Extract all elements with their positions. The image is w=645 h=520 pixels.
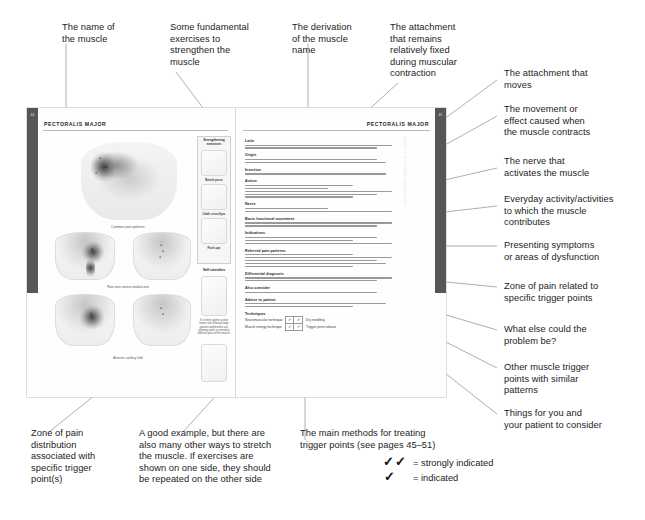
referred-pain-figure-1a xyxy=(55,232,115,280)
exercise-caption-3: Push-ups xyxy=(198,246,230,250)
left-page-number: 44 xyxy=(27,113,38,117)
section-heading: Latin xyxy=(245,139,395,143)
referred-pain-figure-2a xyxy=(55,294,115,346)
strengthening-exercises-box: Strengthening exercises Bench press Cabl… xyxy=(197,136,231,264)
callout-action: The movement or effect caused when the m… xyxy=(504,104,644,139)
section-advice-to-patient: Advice to patient xyxy=(245,298,395,309)
pain-zone-blob xyxy=(86,257,95,279)
legend-label-strong: = strongly indicated xyxy=(413,457,493,470)
callout-also-consider: Other muscle trigger points with similar… xyxy=(504,362,640,397)
right-page: 45 Muscles of the shoulder and upper arm… xyxy=(236,108,446,397)
check-icon: ✓ xyxy=(294,324,302,330)
body-text-line xyxy=(245,225,377,226)
indication-legend: ✓✓ = strongly indicated ✓ = indicated xyxy=(383,455,493,485)
pain-zone-blob-main xyxy=(91,152,117,182)
body-text-line xyxy=(245,173,386,174)
right-page-index-tab: 45 Muscles of the shoulder and upper arm xyxy=(435,108,446,293)
self-stretch-sketch-1 xyxy=(201,276,227,316)
self-stretch-note: To stretch against a door frame, take fo… xyxy=(197,319,231,335)
techniques-row: Muscle energy technique✓✓Trigger point r… xyxy=(245,324,395,331)
callout-pain-zone: Zone of pain distribution associated wit… xyxy=(31,428,123,486)
techniques-table: Neuromuscular technique✓✓Dry needlingMus… xyxy=(245,317,395,331)
body-text-line xyxy=(245,211,392,212)
book-spread: 44 Muscles of the shoulder and upper arm… xyxy=(27,108,446,397)
section-heading: Action xyxy=(245,179,395,183)
strengthening-exercises-heading: Strengthening exercises xyxy=(198,139,230,147)
left-page-title: PECTORALIS MAJOR xyxy=(44,121,106,127)
section-heading: Also consider xyxy=(245,286,395,290)
technique-note: Dry needling xyxy=(306,318,325,322)
caption-referred-1: Common pain patterns xyxy=(53,225,203,229)
section-referred-pain-patterns: Referred pain patterns xyxy=(245,249,395,269)
callout-origin: The attachment that remains relatively f… xyxy=(390,22,472,80)
section-heading: Advice to patient xyxy=(245,298,395,302)
section-nerve: Nerve xyxy=(245,202,395,213)
trigger-point-marker xyxy=(160,307,162,309)
exercise-sketch-3 xyxy=(201,218,228,244)
callout-techniques: The main methods for treating trigger po… xyxy=(300,428,466,451)
left-page-index-tab: 44 Muscles of the shoulder and upper arm xyxy=(27,108,38,293)
right-page-number: 45 xyxy=(435,113,446,117)
body-text-line xyxy=(245,222,392,223)
section-heading: Basic functional movement xyxy=(245,217,395,221)
body-text-line xyxy=(245,185,353,186)
section-origin: Origin xyxy=(245,153,395,164)
right-title-rule xyxy=(243,130,430,131)
technique-label: Muscle energy technique xyxy=(245,325,285,329)
body-text-line xyxy=(245,266,353,267)
section-heading: Differential diagnosis xyxy=(245,272,395,276)
body-text-line xyxy=(245,280,377,281)
body-text-line xyxy=(245,145,392,146)
trigger-point-marker xyxy=(162,250,164,252)
body-text-line xyxy=(245,263,386,264)
body-text-line xyxy=(245,194,377,195)
section-heading: Origin xyxy=(245,153,395,157)
section-heading: Indications xyxy=(245,231,395,235)
body-text-line xyxy=(245,162,386,163)
trigger-point-marker xyxy=(159,256,161,258)
section-basic-functional-movement: Basic functional movement xyxy=(245,217,395,228)
caption-referred-2: Pain over antero-medial arm xyxy=(53,285,203,289)
single-check-icon: ✓ xyxy=(383,470,413,483)
callout-self-stretch: A good example, but there are also many … xyxy=(139,428,299,486)
body-text-line xyxy=(245,196,353,197)
self-stretch-sketch-2 xyxy=(201,344,227,382)
body-text-line xyxy=(245,240,353,241)
referred-pain-figure-1b xyxy=(133,232,191,280)
referred-pain-figure-2b xyxy=(133,294,191,346)
section-also-consider: Also consider xyxy=(245,286,395,294)
right-page-content: PECTORALIS MAJOR LatinOriginInsertionAct… xyxy=(241,108,432,397)
torso-anatomy-illustration xyxy=(81,142,177,220)
trigger-point-marker xyxy=(162,313,164,315)
trigger-point-marker xyxy=(160,244,162,246)
pain-zone-blob xyxy=(80,305,104,329)
left-page-content: PECTORALIS MAJOR Common pain patterns xyxy=(41,108,230,397)
body-text-line xyxy=(245,159,377,160)
section-heading: Referred pain patterns xyxy=(245,249,395,253)
section-action: Action xyxy=(245,179,395,199)
body-text-line xyxy=(245,191,392,192)
callout-differential: What else could the problem be? xyxy=(504,324,642,347)
legend-row-strong: ✓✓ = strongly indicated xyxy=(383,455,493,470)
left-title-rule xyxy=(43,130,228,131)
body-text-line xyxy=(245,243,392,244)
self-stretches-heading: Self stretches xyxy=(197,268,231,272)
callout-advice: Things for you and your patient to consi… xyxy=(504,408,644,431)
callout-referred-pain: Zone of pain related to specific trigger… xyxy=(504,281,644,304)
caption-referred-3: Anterior axillary fold xyxy=(53,356,203,360)
techniques-row: Neuromuscular technique✓✓Dry needling xyxy=(245,317,395,324)
section-heading: Techniques xyxy=(245,312,395,316)
callout-insertion: The attachment that moves xyxy=(504,68,642,91)
body-text-line xyxy=(245,208,328,209)
body-text-line xyxy=(245,237,377,238)
body-text-line xyxy=(245,260,377,261)
left-page: 44 Muscles of the shoulder and upper arm… xyxy=(27,108,236,397)
section-heading: Insertion xyxy=(245,168,395,172)
right-page-title: PECTORALIS MAJOR xyxy=(367,121,429,127)
body-text-line xyxy=(245,306,353,307)
technique-note: Trigger point release xyxy=(306,325,336,329)
callout-muscle-name: The name of the muscle xyxy=(62,22,146,45)
callout-nerve: The nerve that activates the muscle xyxy=(504,156,642,179)
annotated-figure: The name of the muscle Some fundamental … xyxy=(0,0,645,520)
body-text-line xyxy=(245,147,377,148)
